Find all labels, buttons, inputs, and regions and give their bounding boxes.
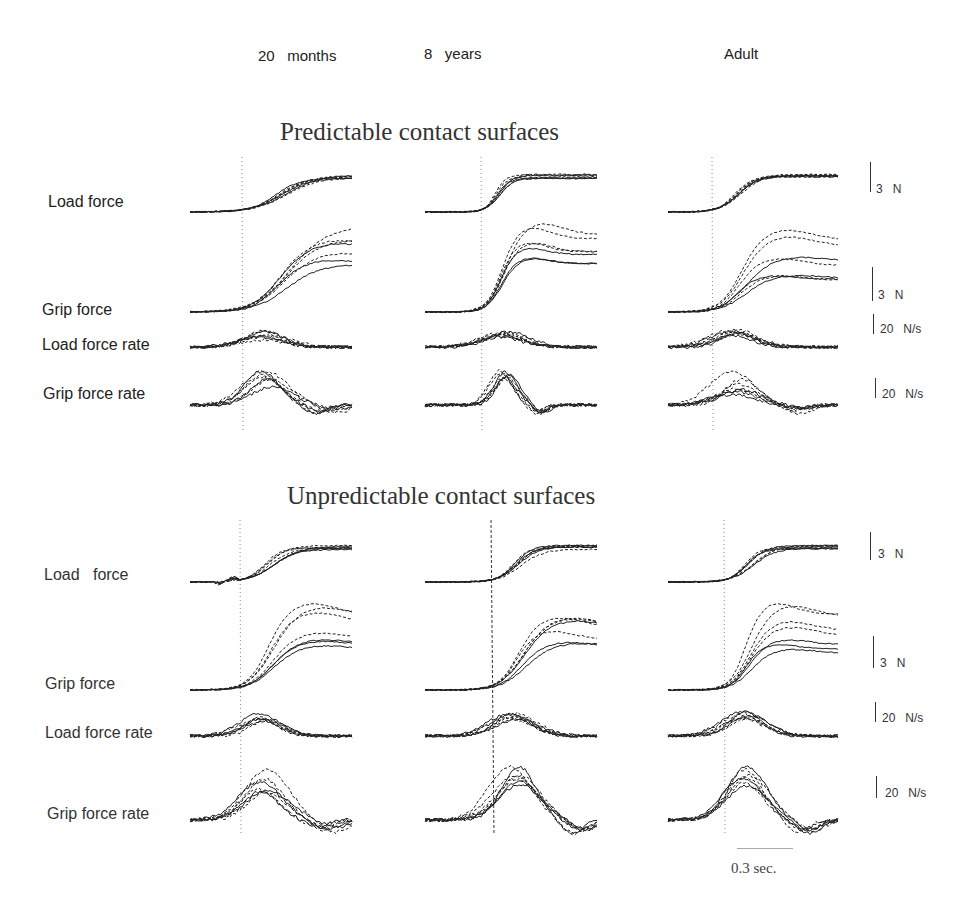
dashed-trace <box>425 632 597 691</box>
dashed-trace <box>190 788 352 828</box>
lift-onset-line <box>491 520 494 835</box>
dashed-trace <box>190 548 352 584</box>
solid-trace <box>425 621 597 691</box>
dashed-trace <box>190 613 352 690</box>
dashed-trace <box>190 793 352 829</box>
solid-trace <box>190 713 352 737</box>
dashed-trace <box>190 253 352 312</box>
solid-trace <box>190 641 352 691</box>
dashed-trace <box>190 176 352 213</box>
solid-trace <box>190 178 352 212</box>
solid-trace <box>190 178 352 213</box>
solid-trace <box>425 175 597 213</box>
solid-trace <box>668 391 838 410</box>
dashed-trace <box>668 230 838 312</box>
solid-trace <box>425 178 597 213</box>
solid-trace <box>425 545 597 583</box>
dashed-trace <box>668 777 838 831</box>
solid-trace <box>668 779 838 832</box>
solid-trace <box>425 248 597 312</box>
lift-onset-line <box>240 520 241 835</box>
dashed-trace <box>190 176 352 212</box>
dashed-trace <box>668 627 838 690</box>
solid-trace <box>425 371 597 415</box>
dashed-trace <box>425 377 597 413</box>
dashed-trace <box>190 604 352 691</box>
dashed-trace <box>425 549 597 583</box>
dashed-trace <box>425 228 597 312</box>
solid-trace <box>190 646 352 691</box>
dashed-trace <box>190 608 352 691</box>
dashed-trace <box>190 376 352 412</box>
dashed-trace <box>190 241 352 313</box>
solid-trace <box>190 640 352 691</box>
solid-trace <box>668 766 838 835</box>
solid-trace <box>425 376 597 412</box>
dashed-trace <box>668 546 838 583</box>
solid-trace <box>425 259 597 313</box>
dashed-trace <box>668 237 838 312</box>
dashed-trace <box>425 618 597 690</box>
dashed-trace <box>668 259 838 313</box>
dashed-trace <box>668 604 838 691</box>
dashed-trace <box>190 241 352 313</box>
dashed-trace <box>668 622 838 691</box>
solid-trace <box>190 175 352 212</box>
dashed-trace <box>190 178 352 213</box>
lift-onset-line <box>724 520 725 835</box>
solid-trace <box>668 548 838 583</box>
dashed-trace <box>668 768 838 833</box>
solid-trace <box>425 547 597 583</box>
lift-onset-line <box>712 157 713 432</box>
dashed-trace <box>425 547 597 583</box>
dashed-trace <box>190 545 352 584</box>
dashed-trace <box>668 175 838 212</box>
force-traces-plot <box>0 0 975 910</box>
solid-trace <box>425 258 597 313</box>
dashed-trace <box>190 177 352 213</box>
solid-trace <box>668 257 838 312</box>
solid-trace <box>668 276 838 313</box>
solid-trace <box>668 640 838 691</box>
dashed-trace <box>425 243 597 312</box>
dashed-trace <box>425 619 597 691</box>
solid-trace <box>425 547 597 583</box>
dashed-trace <box>425 778 597 831</box>
dashed-trace <box>425 377 597 412</box>
dashed-trace <box>668 174 838 212</box>
dashed-trace <box>425 546 597 583</box>
dashed-trace <box>190 378 352 412</box>
dashed-trace <box>668 782 838 829</box>
dashed-trace <box>425 618 597 690</box>
solid-trace <box>190 386 352 411</box>
dashed-trace <box>425 545 597 583</box>
dashed-trace <box>190 547 352 584</box>
dashed-trace <box>425 373 597 413</box>
solid-trace <box>190 546 352 583</box>
lift-onset-line <box>242 157 243 432</box>
lift-onset-line <box>481 157 482 432</box>
dashed-trace <box>425 177 597 213</box>
solid-trace <box>190 782 352 831</box>
dashed-trace <box>425 243 597 312</box>
solid-trace <box>190 548 352 584</box>
solid-trace <box>668 785 838 829</box>
solid-trace <box>190 791 352 828</box>
solid-trace <box>425 335 597 349</box>
solid-trace <box>190 244 352 313</box>
